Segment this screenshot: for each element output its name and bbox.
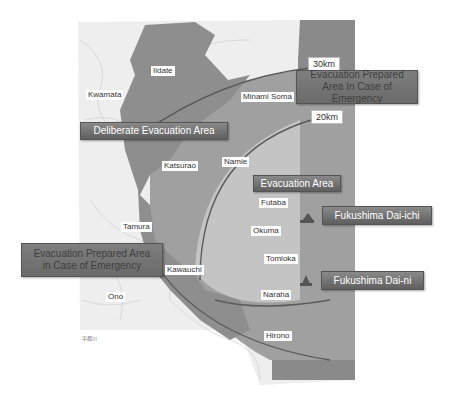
place-iidate: Iidate: [151, 66, 175, 76]
radius-label-20km: 20km: [311, 110, 343, 124]
place-kawauchi: Kawauchi: [165, 265, 204, 275]
banner-prepared-area-west: Evacuation Prepared Area in Case of Emer…: [21, 243, 163, 277]
place-tamura: Tamura: [121, 222, 152, 232]
banner-fukushima-daini: Fukushima Dai-ni: [321, 271, 424, 290]
place-ono: Ono: [106, 292, 125, 302]
place-minami-soma: Minami Soma: [241, 92, 294, 102]
place-katsurao: Katsurao: [162, 161, 198, 171]
banner-prepared-area-northeast: Evacuation Prepared Area In Case of Emer…: [296, 70, 418, 104]
banner-evacuation-area: Evacuation Area: [253, 175, 341, 192]
place-namie: Namie: [222, 157, 249, 167]
evacuation-zone-map: [0, 0, 453, 397]
banner-fukushima-daiichi: Fukushima Dai-ichi: [322, 206, 432, 225]
place-futaba: Futaba: [259, 198, 288, 208]
place-tomioka: Tomioka: [264, 254, 298, 264]
place-okuma: Okuma: [251, 226, 281, 236]
place-kwamata: Kwamata: [86, 90, 123, 100]
map-attribution: 宇都川: [82, 334, 97, 341]
banner-deliberate-evacuation-area: Deliberate Evacuation Area: [80, 122, 228, 140]
place-hirono: Hirono: [264, 331, 292, 341]
place-naraha: Naraha: [261, 290, 291, 300]
